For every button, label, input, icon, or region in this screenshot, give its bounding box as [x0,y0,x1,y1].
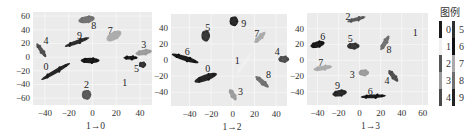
legend-label: 5 [459,24,464,35]
legend-label: 0 [446,24,451,35]
cluster-label: 0 [205,63,210,74]
y-tick-label: −60 [16,93,31,103]
cluster-point [82,95,85,98]
cluster-point [126,56,129,59]
cluster-label: 3 [141,39,146,50]
cluster-point [284,56,287,59]
cluster-label: 7 [108,25,113,36]
x-tick-label: −20 [62,108,77,118]
y-tick-label: 0 [164,55,169,65]
legend-label: 9 [459,92,464,103]
x-tick-label: −20 [204,109,219,119]
cluster-label: 1 [122,77,127,88]
legend-swatch [452,72,455,89]
x-tick-label: −20 [332,108,347,118]
x-tick-label: 0 [357,108,362,118]
cluster-label: 9 [241,18,246,29]
legend-swatch [452,89,455,106]
cluster-label: 7 [254,28,259,39]
legend-item-3: 3 [439,72,451,89]
legend-label: 6 [459,41,464,52]
cluster-point [142,61,145,64]
legend-swatch [439,72,442,89]
cluster-point [364,69,367,72]
y-tick-label: 40 [295,24,305,34]
legend-item-2: 2 [439,55,451,72]
cluster-point [95,59,98,62]
cluster-point [236,20,239,23]
cluster-point [139,62,142,65]
x-tick-label: 40 [136,108,146,118]
y-tick-label: 20 [21,38,31,48]
legend-item-1: 1 [439,38,451,55]
y-tick-label: 40 [159,23,169,33]
x-tick-label: 20 [250,109,260,119]
y-tick-label: −40 [290,87,305,97]
cluster-label: 1 [235,55,240,66]
cluster-point [230,17,233,20]
y-tick-label: −40 [16,79,31,89]
cluster-label: 8 [91,20,96,31]
y-tick-label: 20 [295,39,305,49]
cluster-point [142,65,145,68]
legend-label: 1 [446,41,451,52]
cluster-label: 2 [346,11,351,22]
legend-swatch [439,55,442,72]
x-tick-label: 0 [231,109,236,119]
legend-label: 7 [459,58,464,69]
cluster-label: 6 [320,31,325,42]
panel-3: −40−20020406040200−20−401→32165873496 [290,11,428,131]
y-tick-label: 20 [159,39,169,49]
cluster-label: 2 [84,79,89,90]
y-tick-label: 0 [300,55,305,65]
y-tick-label: 60 [21,11,31,21]
cluster-point [89,93,92,96]
cluster-label: 5 [348,33,353,44]
legend: 图例 0123456789 [439,6,464,106]
cluster-label: 4 [384,75,389,86]
cluster-point [283,60,286,63]
legend-label: 3 [446,75,451,86]
cluster-point [280,56,283,59]
cluster-point [366,71,369,74]
y-tick-label: −20 [16,66,31,76]
cluster-label: 1 [413,27,418,38]
cluster-point [356,45,359,48]
x-tick-label: 40 [272,109,282,119]
cluster-label: 8 [266,69,271,80]
legend-item-0: 0 [439,21,451,38]
x-tick-label: −40 [38,108,53,118]
cluster-point [83,91,86,94]
cluster-point [134,57,137,60]
cluster-point [360,70,363,73]
x-tick-label: −40 [310,108,325,118]
cluster-label: 9 [335,80,340,91]
x-tick-label: −40 [182,109,197,119]
x-axis-label: 1→2 [223,122,242,132]
cluster-point [353,47,356,50]
y-tick-label: 40 [21,25,31,35]
legend-swatch [439,21,442,38]
cluster-label: 5 [134,63,139,74]
legend-swatch [439,38,442,55]
cluster-label: 6 [185,46,190,57]
cluster-point [279,59,282,62]
panel-2: −40−200204040200−20−401→2957641083 [154,14,289,132]
cluster-point [87,90,90,93]
x-tick-label: 20 [376,108,386,118]
legend-label: 2 [446,58,451,69]
legend-item-5: 5 [452,21,464,38]
legend-item-6: 6 [452,38,464,55]
cluster-point [234,17,237,20]
cluster-point [354,43,357,46]
cluster-point [91,61,94,64]
panel-1: −40−20020406040200−20−40−601→0879435021 [16,11,153,131]
x-tick-label: 0 [90,108,95,118]
legend-label: 4 [446,92,451,103]
cluster-point [205,39,208,42]
cluster-label: 9 [77,30,82,41]
cluster-label: 3 [350,69,355,80]
y-tick-label: −20 [290,71,305,81]
legend-item-8: 8 [452,72,464,89]
cluster-point [348,46,351,49]
